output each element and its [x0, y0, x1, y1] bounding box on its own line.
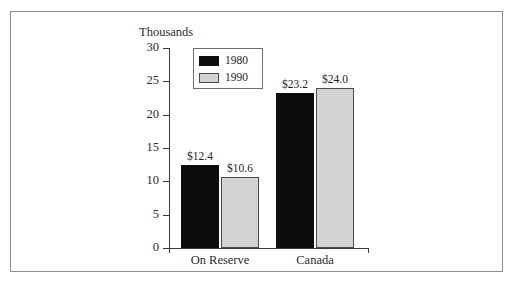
legend-entry-1990[interactable]: 1990 [199, 70, 257, 85]
x-axis-start-tick [169, 248, 170, 253]
bar-label-on-reserve-1980: $12.4 [171, 150, 229, 162]
y-axis-label-20: 20 [121, 115, 161, 116]
y-axis-tick-label: 30 [121, 40, 159, 55]
legend-swatch-icon-1980 [199, 56, 219, 66]
y-axis-title: Thousands [139, 25, 193, 40]
x-axis-end-tick [368, 248, 369, 253]
y-axis-tick [163, 181, 169, 182]
y-axis-tick-label: 10 [121, 173, 159, 188]
x-axis-category-on-reserve: On Reserve [180, 253, 260, 268]
bar-on-reserve-1980[interactable] [181, 165, 219, 248]
figure-frame: Thousands 30 25 20 15 10 5 [10, 11, 503, 272]
y-axis-tick [163, 215, 169, 216]
chart-legend: 1980 1990 [193, 48, 263, 89]
y-axis-label-0: 0 [121, 248, 161, 249]
bar-canada-1990[interactable] [316, 88, 354, 248]
y-axis-tick [163, 48, 169, 49]
y-axis-line [169, 48, 170, 249]
chart-plot-area: Thousands 30 25 20 15 10 5 [11, 12, 504, 273]
y-axis-label-25: 25 [121, 81, 161, 82]
y-axis-tick [163, 81, 169, 82]
y-axis-label-30: 30 [121, 48, 161, 49]
x-axis-category-canada: Canada [275, 253, 355, 268]
x-axis-line [169, 248, 369, 249]
y-axis-tick-label: 25 [121, 73, 159, 88]
y-axis-tick [163, 115, 169, 116]
bar-label-canada-1990: $24.0 [306, 73, 364, 85]
legend-swatch-icon-1990 [199, 73, 219, 83]
y-axis-tick [163, 248, 169, 249]
y-axis-label-5: 5 [121, 215, 161, 216]
legend-entry-1980[interactable]: 1980 [199, 53, 257, 68]
y-axis-tick-label: 20 [121, 107, 159, 122]
legend-label-1990: 1990 [225, 72, 248, 84]
y-axis-tick [163, 148, 169, 149]
bar-on-reserve-1990[interactable] [221, 177, 259, 248]
bar-label-on-reserve-1990: $10.6 [211, 162, 269, 174]
y-axis-tick-label: 5 [121, 207, 159, 222]
y-axis-label-15: 15 [121, 148, 161, 149]
bar-canada-1980[interactable] [276, 93, 314, 248]
legend-label-1980: 1980 [225, 55, 248, 67]
y-axis-tick-label: 0 [121, 240, 159, 255]
y-axis-label-10: 10 [121, 181, 161, 182]
y-axis-tick-label: 15 [121, 140, 159, 155]
